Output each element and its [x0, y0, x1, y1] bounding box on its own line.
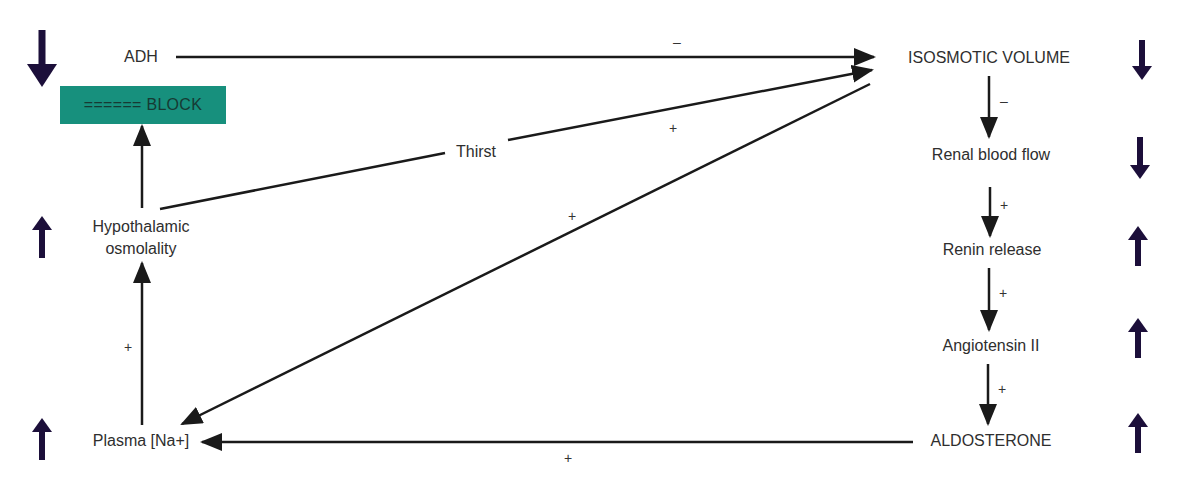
node-isosmotic-volume: ISOSMOTIC VOLUME — [908, 48, 1070, 68]
sign-angiotensin-aldosterone: + — [998, 381, 1006, 397]
sign-renin-angiotensin: + — [999, 285, 1007, 301]
down-arrow-icon — [1132, 40, 1152, 80]
sign-renal-renin: + — [1000, 197, 1008, 213]
up-arrow-icon — [1128, 226, 1148, 266]
node-thirst: Thirst — [456, 142, 496, 162]
sign-volume-plasma: + — [568, 208, 576, 224]
node-aldosterone: ALDOSTERONE — [931, 431, 1052, 451]
node-adh: ADH — [124, 47, 158, 67]
feedback-diagram: ====== BLOCK ADH Hypothalamic osmolality… — [0, 0, 1180, 484]
up-arrow-icon — [1128, 318, 1148, 358]
sign-plasma-hypothalamic: + — [124, 339, 132, 355]
block-label: ====== BLOCK — [84, 96, 202, 114]
edge-thirst-to-volume — [508, 70, 872, 140]
down-arrow-icon — [1130, 137, 1150, 179]
sign-aldosterone-plasma: + — [564, 450, 572, 466]
block-label-box: ====== BLOCK — [60, 86, 226, 124]
up-arrow-icon — [1128, 413, 1148, 453]
node-plasma-sodium: Plasma [Na+] — [93, 431, 189, 451]
down-arrow-icon — [27, 30, 57, 88]
sign-adh-volume: – — [673, 34, 681, 50]
up-arrow-icon — [32, 418, 52, 460]
edge-volume-to-plasma — [182, 84, 870, 424]
node-renal-blood-flow: Renal blood flow — [932, 145, 1050, 165]
edge-hypothalamic-to-thirst — [160, 153, 445, 209]
node-hypothalamic-osmolality: Hypothalamic osmolality — [93, 216, 190, 260]
up-arrow-icon — [32, 216, 52, 258]
sign-thirst-volume: + — [669, 120, 677, 136]
node-renin-release: Renin release — [943, 240, 1042, 260]
node-angiotensin-ii: Angiotensin II — [943, 336, 1040, 356]
sign-volume-renal: – — [1000, 93, 1008, 109]
